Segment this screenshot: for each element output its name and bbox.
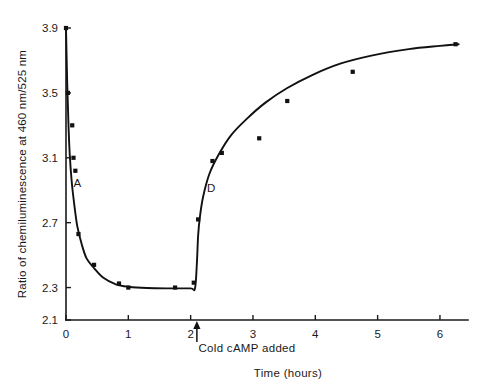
data-point-marker — [70, 123, 74, 127]
event-arrow-head — [193, 321, 200, 329]
data-point-marker — [92, 263, 96, 267]
y-axis-title: Ratio of chemiluminescence at 460 nm/525… — [16, 50, 28, 298]
data-point-marker — [192, 281, 196, 285]
data-point-marker — [173, 285, 177, 289]
y-tick-label: 2.7 — [42, 217, 58, 229]
y-tick-label: 2.3 — [42, 282, 58, 294]
x-tick-label: 5 — [374, 328, 380, 340]
data-point-marker — [257, 136, 261, 140]
data-point-marker — [73, 169, 77, 173]
data-point-marker — [76, 232, 80, 236]
y-tick-label: 2.1 — [42, 314, 58, 326]
data-curve — [66, 28, 459, 290]
axes-group — [66, 28, 468, 320]
data-point-marker — [285, 99, 289, 103]
x-tick-label: 6 — [437, 328, 443, 340]
x-axis-tick-labels: 0123456 — [63, 328, 443, 340]
data-point-marker — [117, 281, 121, 285]
x-tick-label: 3 — [250, 328, 256, 340]
y-axis-tick-labels: 2.12.32.73.13.53.9 — [42, 22, 58, 326]
data-point-markers — [64, 26, 458, 290]
phase-label-d: D — [207, 182, 215, 194]
data-point-marker — [196, 217, 200, 221]
y-tick-label: 3.5 — [42, 87, 58, 99]
data-point-marker — [64, 26, 68, 30]
x-tick-label: 2 — [187, 328, 193, 340]
data-point-marker — [351, 70, 355, 74]
cold-camp-arrow — [193, 321, 200, 342]
x-tick-label: 4 — [312, 328, 319, 340]
data-point-marker — [126, 285, 130, 289]
data-point-marker — [220, 151, 224, 155]
data-point-marker — [210, 159, 214, 163]
chart-canvas: 2.12.32.73.13.53.9 0123456 A D Cold cAMP… — [0, 0, 495, 388]
phase-label-a: A — [73, 177, 81, 189]
chart-figure: 2.12.32.73.13.53.9 0123456 A D Cold cAMP… — [0, 0, 495, 388]
y-tick-label: 3.9 — [42, 22, 58, 34]
x-axis-title: Time (hours) — [254, 367, 322, 379]
data-point-marker — [71, 156, 75, 160]
y-tick-label: 3.1 — [42, 152, 58, 164]
x-tick-label: 0 — [63, 328, 69, 340]
cold-camp-caption: Cold cAMP added — [199, 342, 296, 354]
x-tick-label: 1 — [125, 328, 131, 340]
data-point-marker — [453, 42, 457, 46]
data-point-marker — [66, 91, 70, 95]
